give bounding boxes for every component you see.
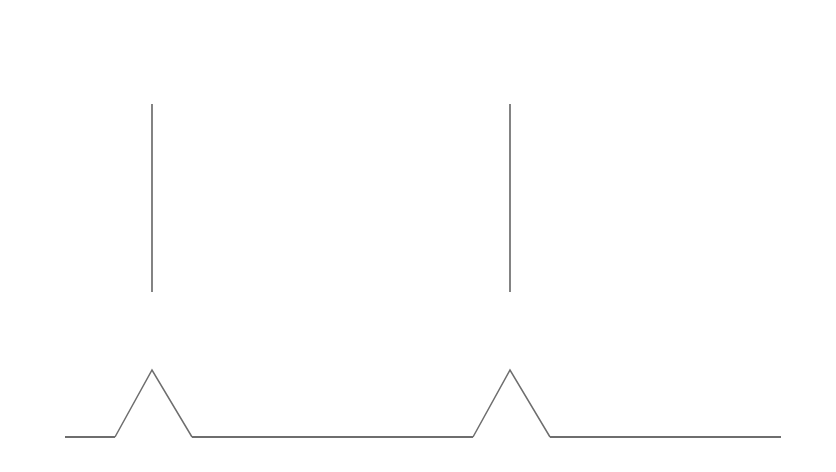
diagram-canvas [0, 0, 836, 472]
bus-tap-left [115, 370, 192, 437]
device-group-left [0, 0, 192, 437]
bus-tap-right [473, 370, 550, 437]
device-group-right [0, 0, 550, 437]
rs485-wiring-diagram [0, 0, 836, 472]
